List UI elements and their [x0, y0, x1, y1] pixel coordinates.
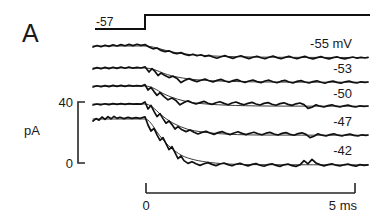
- y-tick-label-bottom: 0: [66, 156, 73, 171]
- voltage-step-trace: [95, 15, 370, 29]
- trace-fit-curve: [93, 104, 368, 135]
- figure-panel-a: A -57 -55 mV -53 -50: [0, 0, 383, 217]
- x-axis-scalebar: 0 5 ms: [142, 183, 357, 213]
- trace-label: -47: [333, 114, 352, 129]
- electrophysiology-chart: A -57 -55 mV -53 -50: [0, 0, 383, 217]
- trace-row: -53: [93, 61, 368, 83]
- trace-label: -42: [333, 143, 352, 158]
- trace-fit-curve: [93, 68, 368, 82]
- y-axis-scalebar: 40 0 pA: [24, 95, 85, 171]
- trace-data-curve: [93, 67, 368, 83]
- stimulus-pulse-group: -57: [95, 15, 370, 29]
- x-tick-label-right: 5 ms: [329, 198, 358, 213]
- x-scalebar-bracket: [146, 183, 355, 193]
- y-tick-label-top: 40: [59, 95, 73, 110]
- trace-row: -47: [93, 102, 368, 138]
- trace-row: -55 mV: [93, 36, 368, 59]
- trace-label: -53: [333, 61, 352, 76]
- trace-fit-curve: [93, 119, 368, 165]
- y-scalebar-bracket: [78, 102, 85, 163]
- trace-label: -55 mV: [310, 36, 352, 51]
- panel-letter: A: [22, 19, 39, 47]
- trace-data-curve: [93, 102, 368, 138]
- x-tick-label-left: 0: [142, 198, 149, 213]
- trace-label: -50: [333, 86, 352, 101]
- trace-row: -42: [93, 116, 368, 166]
- trace-group: -55 mV -53 -50 -47: [93, 36, 368, 166]
- holding-potential-label: -57: [96, 15, 114, 29]
- y-axis-unit-label: pA: [24, 123, 40, 138]
- trace-data-curve: [93, 116, 368, 166]
